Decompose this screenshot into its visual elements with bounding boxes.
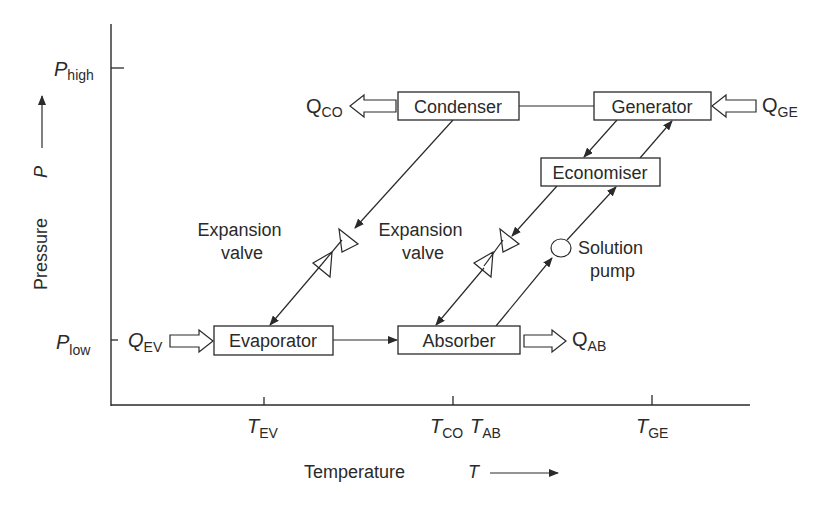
q-ev-arrow-icon <box>170 330 213 352</box>
valve-to-absorber-line <box>436 268 484 325</box>
valve-to-evaporator-line <box>270 264 322 325</box>
economiser-to-valve-line <box>512 186 557 236</box>
svg-text:Evaporator: Evaporator <box>229 331 317 351</box>
p-high-label: Phigh <box>54 58 94 83</box>
solution-pump-label: Solution pump <box>578 238 648 281</box>
t-ge-label: TGE <box>636 415 668 441</box>
absorber-to-pump-line <box>496 258 552 326</box>
q-ge-label: QGE <box>762 94 798 120</box>
q-co-arrow-icon <box>350 95 396 117</box>
svg-text:Pressure: Pressure <box>31 218 51 290</box>
p-low-label: Plow <box>56 331 91 358</box>
q-ab-arrow-icon <box>524 330 566 352</box>
absorber-box: Absorber <box>398 326 520 354</box>
y-axis-title: Pressure P <box>31 166 51 290</box>
expansion-valve-1-label: Expansion valve <box>197 220 286 263</box>
t-ab-label: TAB <box>470 415 501 441</box>
q-ge-arrow-icon <box>712 95 756 117</box>
absorption-cycle-diagram: Phigh Plow Pressure P TEV TCO TAB TGE Te… <box>0 0 827 511</box>
svg-text:Generator: Generator <box>611 97 692 117</box>
expansion-valve-1-icon <box>313 229 358 277</box>
expansion-valve-2-label: Expansion valve <box>378 220 467 263</box>
solution-pump-icon <box>551 239 571 257</box>
economiser-to-generator-line <box>640 121 672 158</box>
t-ev-label: TEV <box>247 415 279 441</box>
svg-text:Absorber: Absorber <box>422 331 495 351</box>
generator-to-economiser-line <box>584 120 617 157</box>
condenser-box: Condenser <box>398 92 519 120</box>
svg-text:Condenser: Condenser <box>414 97 502 117</box>
x-axis-title: Temperature <box>304 462 405 482</box>
economiser-box: Economiser <box>541 158 660 186</box>
q-ev-label: QEV <box>128 329 163 355</box>
q-co-label: QCO <box>306 95 343 120</box>
generator-box: Generator <box>594 92 711 120</box>
t-co-label: TCO <box>430 415 463 441</box>
svg-text:P: P <box>31 166 51 178</box>
flow-lines <box>270 106 672 340</box>
x-axis-symbol: T <box>468 462 481 482</box>
pump-to-economiser-line <box>567 187 616 240</box>
condenser-to-valve-line <box>355 120 453 228</box>
q-ab-label: QAB <box>572 328 606 354</box>
evaporator-box: Evaporator <box>214 326 333 355</box>
svg-text:Economiser: Economiser <box>552 163 647 183</box>
